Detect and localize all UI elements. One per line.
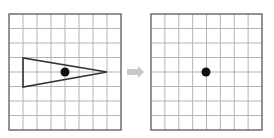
right-arrow-icon [127,66,144,78]
left-center-dot [61,68,70,77]
right-center-dot [202,68,211,77]
diagram-canvas [0,0,274,138]
